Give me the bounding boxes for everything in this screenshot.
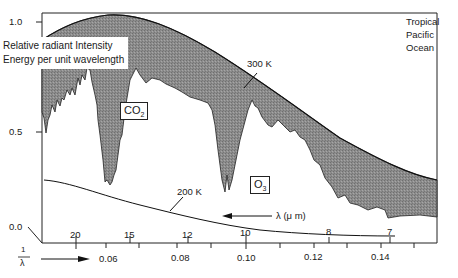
inverse-tick-0-06: 0.06 — [99, 253, 118, 264]
inverse-tick-0-14: 0.14 — [371, 251, 390, 262]
inverse-lambda-numerator: 1 — [21, 245, 25, 254]
y-tick-1-0: 1.0 — [9, 16, 22, 27]
inverse-tick-0-12: 0.12 — [304, 251, 323, 262]
location-label: Tropical Pacific Ocean — [406, 15, 439, 54]
wavelength-tick-15: 15 — [124, 229, 135, 240]
y-axis-label-line-1: Relative radiant Intensity — [3, 39, 124, 53]
location-line-2: Pacific — [406, 28, 439, 41]
location-line-1: Tropical — [406, 15, 439, 28]
lambda-arrowhead-icon — [222, 213, 232, 219]
o3-label: O3 — [254, 178, 266, 190]
inverse-tick-0-10: 0.10 — [237, 252, 256, 263]
o3-label-box: O3 — [250, 176, 270, 194]
co2-label: CO2 — [124, 104, 144, 116]
co2-label-box: CO2 — [120, 102, 148, 120]
y-axis-label: Relative radiant Intensity Energy per un… — [0, 37, 128, 69]
location-line-3: Ocean — [406, 41, 439, 54]
y-tick-0-5: 0.5 — [9, 126, 22, 137]
wavelength-tick-20: 20 — [70, 229, 81, 240]
wavelength-tick-8: 8 — [326, 226, 331, 237]
inverse-wavelength-ticks — [76, 243, 414, 249]
lambda-unit-label: λ (μ m) — [276, 210, 306, 221]
inverse-lambda-arrowhead-icon — [78, 256, 90, 262]
label-300k: 300 K — [247, 58, 272, 69]
y-tick-0-0: 0.0 — [9, 221, 22, 232]
wavelength-tick-7: 7 — [387, 226, 392, 237]
inverse-tick-0-08: 0.08 — [171, 252, 190, 263]
inverse-lambda-denominator: λ — [20, 258, 25, 268]
y-axis-label-line-2: Energy per unit wavelength — [3, 53, 124, 67]
leader-200k — [170, 197, 183, 211]
wavelength-tick-12: 12 — [182, 229, 193, 240]
wavelength-tick-10: 10 — [240, 227, 251, 238]
label-200k: 200 K — [177, 186, 202, 197]
